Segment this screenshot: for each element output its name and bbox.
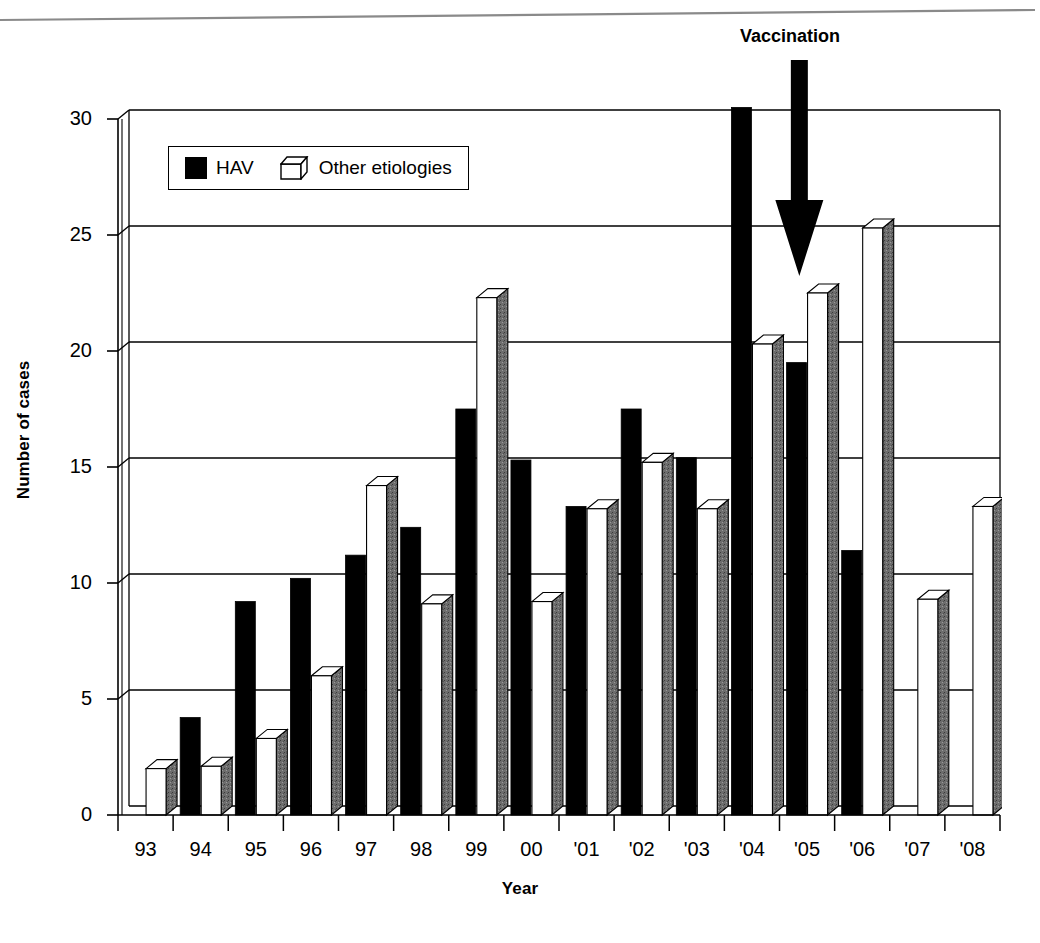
bar-other-96 xyxy=(311,667,342,815)
bar-other-00 xyxy=(532,593,563,815)
bar-hav-'02 xyxy=(621,409,641,815)
legend-label-other: Other etiologies xyxy=(319,157,452,179)
legend-entry-hav: HAV xyxy=(185,157,254,179)
bar-hav-'04 xyxy=(731,107,751,815)
bar-other-97 xyxy=(367,477,398,815)
y-tick-label-25: 25 xyxy=(46,224,92,244)
bar-series-group xyxy=(146,107,1004,815)
bar-hav-'06 xyxy=(842,551,862,815)
y-tick-label-15: 15 xyxy=(46,456,92,476)
bar-other-'07 xyxy=(918,590,949,815)
bar-hav-'03 xyxy=(676,458,696,815)
bar-other-99 xyxy=(477,289,508,815)
y-tick-label-20: 20 xyxy=(46,340,92,360)
figure: Number of cases Year Vaccination 0510152… xyxy=(0,0,1040,943)
bar-hav-00 xyxy=(511,460,531,815)
bar-hav-'05 xyxy=(787,363,807,815)
chart-legend: HAV Other etiologies xyxy=(168,146,469,190)
legend-swatch-other-cube-icon xyxy=(280,156,310,180)
bar-hav-'01 xyxy=(566,506,586,815)
y-tick-label-30: 30 xyxy=(46,108,92,128)
bar-other-'06 xyxy=(863,219,894,815)
bar-other-'08 xyxy=(973,497,1004,815)
legend-entry-other: Other etiologies xyxy=(280,156,452,180)
bar-other-95 xyxy=(256,729,287,815)
bar-hav-98 xyxy=(401,527,421,815)
bar-other-'04 xyxy=(752,335,783,815)
bar-other-'01 xyxy=(587,500,618,815)
y-tick-label-0: 0 xyxy=(46,804,92,824)
vaccination-arrow-icon xyxy=(775,60,823,276)
bar-hav-99 xyxy=(456,409,476,815)
bar-other-93 xyxy=(146,760,177,815)
bar-other-'02 xyxy=(642,453,673,815)
bar-hav-94 xyxy=(180,718,200,815)
bar-other-98 xyxy=(422,595,453,815)
legend-label-hav: HAV xyxy=(216,157,254,179)
bar-hav-96 xyxy=(290,578,310,815)
x-tick-label-08: '08 xyxy=(937,839,1007,859)
bar-chart-plot xyxy=(0,0,1040,943)
bar-other-'05 xyxy=(808,284,839,815)
bar-hav-97 xyxy=(346,555,366,815)
bar-other-94 xyxy=(201,757,232,815)
bar-hav-95 xyxy=(235,602,255,815)
legend-swatch-hav-icon xyxy=(185,157,207,179)
y-tick-label-5: 5 xyxy=(46,688,92,708)
y-tick-label-10: 10 xyxy=(46,572,92,592)
bar-other-'03 xyxy=(697,500,728,815)
